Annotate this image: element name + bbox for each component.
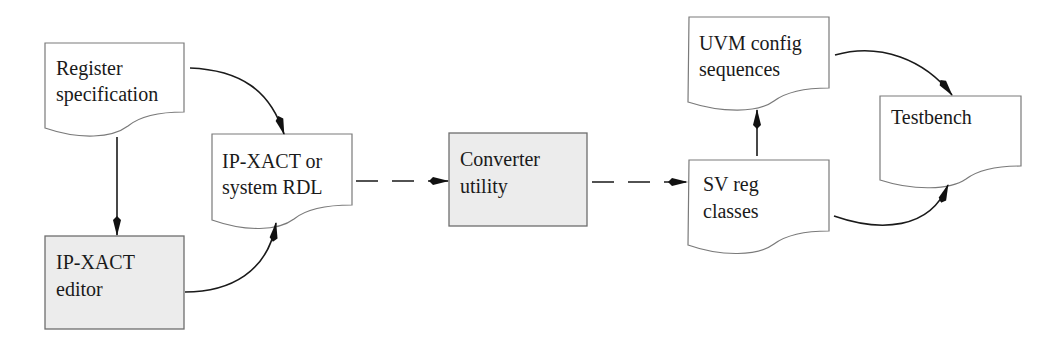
flow-diagram: Register specification IP-XACT editor IP…	[0, 0, 1061, 339]
edge-ipxact-editor-to-ipxact-rdl	[185, 223, 276, 292]
uvm-config-line2: sequences	[699, 58, 780, 81]
edge-register-spec-to-ipxact-rdl	[190, 68, 284, 134]
node-register-specification: Register specification	[45, 43, 184, 136]
ipxact-rdl-line1: IP-XACT or	[222, 150, 323, 172]
node-ipxact-editor: IP-XACT editor	[45, 236, 184, 329]
edge-uvm-config-to-testbench	[835, 51, 952, 95]
ipxact-editor-line1: IP-XACT	[56, 251, 135, 273]
register-spec-line1: Register	[56, 57, 123, 80]
register-spec-line2: specification	[56, 83, 158, 106]
node-sv-reg-classes: SV reg classes	[688, 160, 829, 254]
sv-reg-line2: classes	[703, 200, 759, 222]
node-uvm-config-sequences: UVM config sequences	[688, 17, 829, 110]
ipxact-editor-line2: editor	[56, 278, 103, 300]
sv-reg-line1: SV reg	[703, 173, 759, 196]
converter-line2: utility	[460, 175, 508, 198]
testbench-line1: Testbench	[891, 106, 972, 128]
ipxact-rdl-line2: system RDL	[222, 176, 323, 199]
node-ipxact-or-system-rdl: IP-XACT or system RDL	[212, 134, 352, 229]
node-converter-utility: Converter utility	[449, 133, 587, 226]
uvm-config-line1: UVM config	[699, 32, 802, 55]
converter-line1: Converter	[460, 148, 540, 170]
edge-sv-reg-to-testbench	[834, 185, 948, 225]
node-testbench: Testbench	[880, 96, 1021, 188]
